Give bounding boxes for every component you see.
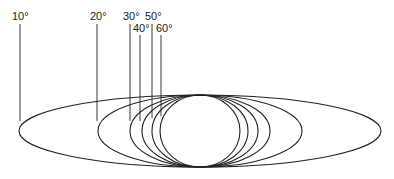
ellipse-group-60deg: 60° (156, 22, 240, 167)
angle-label-60deg: 60° (156, 22, 173, 34)
ellipse-40deg (142, 95, 258, 167)
ellipse-50deg (152, 95, 248, 167)
ellipse-60deg (160, 95, 240, 167)
angle-label-30deg: 30° (123, 10, 140, 22)
ellipse-group-20deg: 20° (90, 10, 302, 167)
ellipse-30deg (130, 95, 270, 167)
angle-label-40deg: 40° (133, 22, 150, 34)
angle-label-50deg: 50° (145, 10, 162, 22)
angle-label-10deg: 10° (12, 10, 29, 22)
ellipse-20deg (98, 95, 302, 167)
angle-label-20deg: 20° (90, 10, 107, 22)
ellipse-group-10deg: 10° (12, 10, 381, 167)
ellipse-10deg (19, 95, 381, 167)
ellipse-angle-diagram: 10°20°30°40°50°60° (0, 0, 394, 179)
